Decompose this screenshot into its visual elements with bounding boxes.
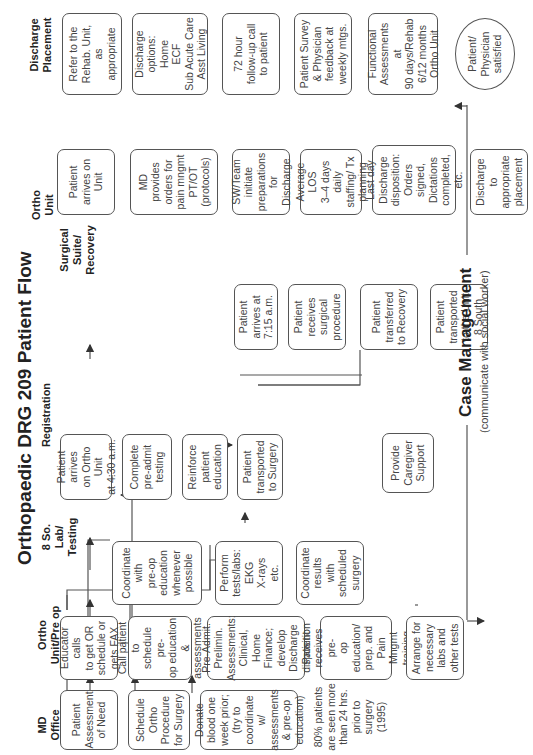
box-discharge-placement: Discharge to appropriate placement — [470, 149, 528, 215]
box-sw-team: SW/Team initiate preparations for Discha… — [232, 149, 290, 215]
page-title: Orthopaedic DRG 209 Patient Flow — [14, 251, 36, 565]
case-management-subtitle: (communicate with social worker) — [478, 270, 490, 433]
box-reinforce-education: Reinforce patient education — [182, 434, 228, 500]
box-md-orders: MD provides orders for pain mngmt PT/OT … — [130, 149, 218, 215]
box-donate-blood: Donate blood one week prior; (try to coo… — [200, 690, 298, 750]
box-caregiver-support: Provide Caregiver Support — [382, 433, 434, 493]
box-transported-surgery: Patient transported to Surgery — [237, 434, 283, 500]
case-management-title: Case Management — [456, 268, 476, 417]
column-header-registration: Registration — [40, 375, 53, 455]
box-followup-call: 72 hour follow-up call to patient — [222, 13, 280, 95]
column-header-discharge: Discharge Placement — [28, 5, 54, 85]
box-arrives-715: Patient arrives at 7:15 a.m. — [234, 284, 278, 350]
box-refer-rehab: Refer to the Rehab. Unit, as appropriate — [62, 13, 122, 95]
box-transferred-recovery: Patient transferred to Recovery — [360, 284, 418, 350]
oval-satisfied: Patient/ Physician satisfied — [455, 18, 515, 90]
flowchart-canvas: Orthopaedic DRG 209 Patient Flow MD Offi… — [0, 0, 533, 755]
box-schedule-ortho: Schedule Ortho Procedure for Surgery — [128, 690, 190, 750]
column-header-md-office: MD Office — [36, 697, 62, 753]
box-coordinate-preop: Coordinate with pre-op education wheneve… — [112, 541, 202, 605]
box-arrange-labs: Arrange for necessary labs and other tes… — [406, 616, 464, 680]
column-header-lab-testing: 8 So. Lab/ Testing — [40, 509, 79, 565]
box-receives-preop: Patient receives pre- op education/ prep… — [320, 616, 392, 680]
box-pre-admit: Pre-Admit. Prelimin. Assessments: Clinic… — [207, 616, 305, 680]
box-discharge-options: Discharge options: Home ECF Sub Acute Ca… — [132, 13, 208, 95]
box-coordinate-results: Coordinate results with scheduled surger… — [296, 541, 364, 605]
box-educator-calls: Educator calls to get OR schedule or get… — [60, 616, 118, 680]
box-arrives-unit: Patient arrives on Unit — [57, 149, 115, 215]
md-office-note: 80% patients are seen more than 24 hrs. … — [312, 679, 387, 755]
column-header-surgical: Surgical Suite/ Recovery — [58, 215, 97, 285]
box-patient-survey: Patient Survey & Physician feedback at w… — [294, 13, 352, 95]
box-last-day: Last day Discharge disposition: Orders s… — [372, 145, 456, 215]
column-header-ortho-unit: Ortho Unit — [30, 170, 56, 240]
box-functional-assessments: Functional Assessments at 90 days/Rehab … — [368, 13, 438, 95]
box-patient-assessment: Patient Assessment of Need — [60, 690, 118, 750]
box-perform-tests: Perform tests/labs: EKG X-rays etc. — [215, 541, 283, 605]
box-surgical-procedure: Patient receives surgical procedure — [288, 284, 346, 350]
box-call-patient: Call patient to schedule pre- op educati… — [128, 616, 192, 680]
box-complete-preadmit: Complete pre-admit testing — [122, 434, 172, 500]
box-average-los: Average LOS 3–4 days daily staffing/ Tx … — [300, 149, 362, 215]
box-arrives-430: Patient arrives on Ortho Unit at 4:30 a.… — [60, 434, 112, 500]
